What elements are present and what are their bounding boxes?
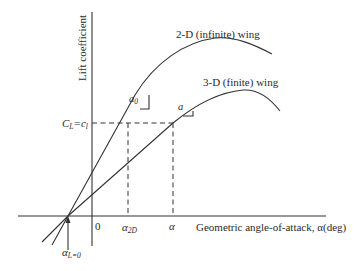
cl-label: CL=cl — [62, 117, 88, 131]
slope-label-a: a — [178, 101, 183, 112]
x-tick-zero: 0 — [95, 220, 101, 232]
x-tick-alpha-2d: α2D — [122, 221, 138, 235]
lift-curve-diagram: Lift coefficient 2-D (infinite) wing 3-D… — [0, 0, 354, 271]
slope-triangle-2d — [140, 95, 149, 109]
curve-2d-label: 2-D (infinite) wing — [176, 28, 260, 41]
y-axis-label: Lift coefficient — [76, 15, 88, 81]
curve-3d-label: 3-D (finite) wing — [203, 76, 279, 89]
x-tick-alpha: α — [169, 220, 175, 232]
x-axis-label: Geometric angle-of-attack, α(deg) — [196, 221, 347, 234]
curve-3d-wing — [42, 90, 280, 242]
zero-lift-label: αL=0 — [62, 246, 81, 260]
